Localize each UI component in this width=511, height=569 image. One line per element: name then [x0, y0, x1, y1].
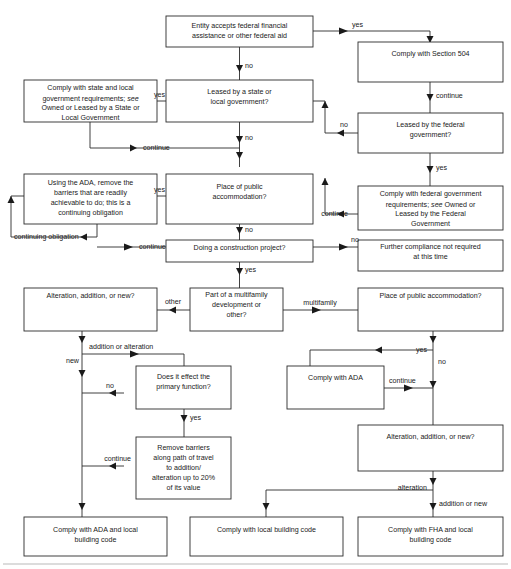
edge-label-multifamily: multifamily [303, 299, 337, 307]
arrow-public-accommodation-down [430, 336, 437, 343]
node-label: Comply with federal government [380, 190, 482, 198]
arrow-no-down-to-alteration-right [430, 381, 437, 388]
node-label: Entity accepts federal financial [192, 22, 288, 30]
arrow-rail-up-2 [322, 178, 329, 185]
arrow-no-to-construction [236, 227, 243, 234]
node-label: other? [226, 311, 246, 319]
node-label: assistance or other federal aid [192, 32, 287, 40]
edge-label-continue-remove-barriers: continue [104, 455, 131, 463]
node-comply-with-local-building-code[interactable]: Comply with local building code [190, 517, 343, 556]
edge-label-continue-504-to-federal: continue [436, 92, 463, 100]
edge-label-no-federal-lease: no [340, 121, 348, 129]
edge-label-no-construction: no [351, 236, 359, 244]
arrow-yes-to-remove-barriers [181, 415, 188, 422]
node-label: Leased by the federal [396, 121, 465, 129]
node-further-compliance-not-required[interactable]: Further compliance not required at this … [358, 240, 503, 271]
arrow-alteration-to-local-code [263, 503, 270, 510]
edge-label-continuing-obligation: continuing obligation [14, 233, 79, 241]
node-label: continuing obligation [58, 209, 123, 217]
node-label: Comply with ADA [308, 374, 363, 382]
arrow-yes-to-multifamily [236, 268, 243, 275]
arrow-no-to-state-lease [236, 65, 243, 72]
flowchart-diagram: Entity accepts federal financial assista… [0, 0, 511, 569]
node-label-italic-see: government requirements; see [42, 94, 138, 102]
arrow-rail-up-1 [322, 101, 329, 108]
node-label: Remove barriers [157, 444, 210, 452]
arrow-addition-new-to-fha [430, 503, 437, 510]
node-label: Further compliance not required [380, 243, 481, 251]
arrow-continue-construction-feed [124, 244, 133, 251]
arrow-other-to-alteration-left [169, 307, 176, 314]
node-label: accommodation? [212, 193, 266, 201]
node-label: Local Government [62, 114, 120, 122]
node-leased-by-state-or-local-government[interactable]: Leased by a state or local government? [166, 80, 313, 122]
node-doing-a-construction-project[interactable]: Doing a construction project? [166, 240, 313, 262]
node-label: primary function? [156, 383, 210, 391]
node-label: Alteration, addition, or new? [387, 433, 475, 441]
node-label: Alteration, addition, or new? [47, 292, 135, 300]
edge-label-alteration: alteration [398, 484, 427, 492]
node-part-of-a-multifamily-development[interactable]: Part of a multifamily development or oth… [190, 288, 283, 331]
node-label: government? [410, 131, 451, 139]
node-comply-with-ada[interactable]: Comply with ADA [287, 366, 384, 409]
edge-label-yes-state-lease: yes [154, 91, 165, 99]
node-place-of-public-accommodation-lower[interactable]: Place of public accommodation? [358, 288, 503, 331]
node-using-the-ada-remove-barriers[interactable]: Using the ADA, remove the barriers that … [24, 174, 157, 224]
node-label: building code [75, 536, 117, 544]
arrow-continue-to-federal-lease [427, 94, 434, 101]
node-comply-with-state-and-local-requirements[interactable]: Comply with state and local government r… [24, 80, 157, 122]
edge-label-continue-comply-ada: continue [389, 377, 416, 385]
arrow-yes-to-504 [339, 28, 348, 35]
node-alteration-addition-or-new-right[interactable]: Alteration, addition, or new? [358, 425, 503, 471]
flowchart-canvas: Entity accepts federal financial assista… [0, 0, 511, 569]
arrow-trunk-to-ada-local-code [79, 503, 86, 510]
node-does-it-effect-the-primary-function[interactable]: Does it effect the primary function? [136, 366, 231, 409]
arrow-new-down [79, 370, 86, 377]
node-label: barriers that are readily [54, 189, 127, 197]
edge-label-addition-or-new: addition or new [439, 500, 488, 508]
edge-label-no-primary-function: no [106, 382, 114, 390]
node-remove-barriers-path-of-travel[interactable]: Remove barriers along path of travel to … [136, 437, 231, 499]
node-place-of-public-accommodation-upper[interactable]: Place of public accommodation? [166, 174, 313, 224]
node-label: of its value [167, 484, 201, 492]
arrow-yes-to-federal-requirements [427, 166, 434, 173]
node-comply-with-fha-and-local-building-code[interactable]: Comply with FHA and local building code [358, 517, 503, 556]
edge-label-no-public-accommodation: no [245, 226, 253, 234]
node-label: Comply with Section 504 [391, 50, 469, 58]
arrow-no-federal-lease [337, 130, 344, 137]
node-label: Leased by a state or [207, 88, 272, 96]
edge-label-yes-federal-lease: yes [436, 164, 447, 172]
node-leased-by-federal-government[interactable]: Leased by the federal government? [358, 113, 503, 153]
node-label: Place of public [216, 183, 263, 191]
node-label: Doing a construction project? [194, 244, 286, 252]
node-label: Using the ADA, remove the [48, 179, 134, 187]
arrow-down-to-addition-new [430, 478, 437, 485]
edge-label-continue-federal-requirements: continue [321, 210, 348, 218]
node-label: Comply with local building code [217, 526, 316, 534]
node-comply-with-section-504[interactable]: Comply with Section 504 [358, 42, 503, 82]
arrow-no-to-public-accommodation [236, 136, 243, 143]
edge-label-new: new [66, 357, 80, 365]
node-comply-with-ada-and-local-building-code[interactable]: Comply with ADA and local building code [24, 517, 167, 556]
node-entity-accepts-federal-aid[interactable]: Entity accepts federal financial assista… [166, 16, 313, 47]
node-label: at this time [413, 253, 447, 261]
node-label: Comply with FHA and local [388, 526, 473, 534]
node-label-italic-see: requirements; see Owned or [386, 200, 476, 208]
node-label: development or [212, 301, 262, 309]
edge-label-yes-public-accommodation: yes [154, 186, 165, 194]
node-label: along path of travel [153, 454, 214, 462]
arrow-no-to-public-accommodation-2 [236, 152, 243, 159]
arrow-no-to-further-compliance [339, 244, 348, 251]
edge-label-other-multifamily: other [165, 298, 182, 306]
node-label: alteration up to 20% [152, 474, 216, 482]
node-label: Part of a multifamily [205, 291, 268, 299]
arrow-addition-or-alteration [130, 351, 139, 358]
node-comply-with-federal-government-requirements[interactable]: Comply with federal government requireme… [358, 186, 503, 230]
node-label: local government? [211, 98, 269, 106]
edge-label-no-from-entity: no [245, 62, 253, 70]
edge-label-yes-primary-function: yes [190, 414, 201, 422]
node-label: Owned or Leased by a State or [41, 104, 140, 112]
node-label: Leased by the Federal [395, 210, 466, 218]
arrow-alteration-down [79, 336, 86, 343]
node-alteration-addition-or-new-left[interactable]: Alteration, addition, or new? [24, 288, 157, 331]
